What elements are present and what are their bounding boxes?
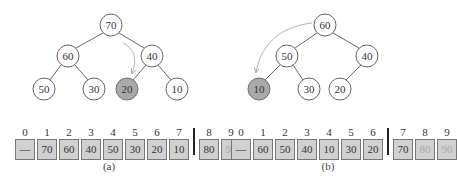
- svg-text:60: 60: [63, 50, 75, 62]
- svg-text:40: 40: [147, 50, 159, 62]
- array-index: 8: [199, 127, 219, 138]
- tree-b-node: 20: [329, 78, 351, 100]
- array-index: 4: [103, 127, 123, 138]
- array-index: 7: [169, 127, 189, 138]
- tree-a-node-highlighted: 20: [116, 78, 138, 100]
- array-cell-sorted: 80: [415, 139, 435, 160]
- svg-text:20: 20: [335, 83, 347, 95]
- heap-boundary-divider-a: [193, 128, 195, 155]
- tree-a-node: 60: [57, 45, 79, 67]
- svg-text:40: 40: [362, 50, 374, 62]
- array-index: 2: [275, 127, 295, 138]
- caption-a: (a): [89, 160, 129, 172]
- array-cell-sorted: 90: [437, 139, 457, 160]
- array-index: 3: [297, 127, 317, 138]
- svg-text:30: 30: [304, 83, 316, 95]
- svg-text:10: 10: [254, 83, 266, 95]
- array-index: 6: [147, 127, 167, 138]
- array-index: 5: [125, 127, 145, 138]
- array-index: 1: [253, 127, 273, 138]
- array-cell: 20: [147, 139, 167, 160]
- tree-a-node: 10: [166, 78, 188, 100]
- swap-arrow-a: [123, 43, 135, 73]
- array-cell: 60: [253, 139, 273, 160]
- array-index: 1: [37, 127, 57, 138]
- tree-a-node-root: 70: [100, 14, 122, 36]
- svg-text:70: 70: [106, 19, 118, 31]
- array-cell: 60: [59, 139, 79, 160]
- array-index: 7: [393, 127, 413, 138]
- array-index: 0: [15, 127, 35, 138]
- tree-a-node: 30: [83, 78, 105, 100]
- array-cell-sorted: 80: [199, 139, 219, 160]
- array-cell: 40: [81, 139, 101, 160]
- array-index: 0: [231, 127, 251, 138]
- caption-b: (b): [308, 160, 348, 172]
- array-cell: —: [15, 139, 35, 160]
- svg-text:20: 20: [122, 83, 134, 95]
- svg-text:50: 50: [282, 50, 294, 62]
- tree-b-node-root: 60: [314, 14, 336, 36]
- tree-b-node: 40: [356, 45, 378, 67]
- array-cell: 10: [319, 139, 339, 160]
- array-cell-sorted: 70: [393, 139, 413, 160]
- tree-a-node: 50: [33, 78, 55, 100]
- array-index: 3: [81, 127, 101, 138]
- array-index: 6: [363, 127, 383, 138]
- array-index: 4: [319, 127, 339, 138]
- svg-text:50: 50: [39, 83, 51, 95]
- array-cell: —: [231, 139, 251, 160]
- svg-text:30: 30: [89, 83, 101, 95]
- svg-text:60: 60: [320, 19, 332, 31]
- array-cell: 40: [297, 139, 317, 160]
- array-cell: 50: [103, 139, 123, 160]
- tree-b-node: 50: [276, 45, 298, 67]
- tree-a-node: 40: [141, 45, 163, 67]
- array-index: 8: [415, 127, 435, 138]
- array-cell: 30: [125, 139, 145, 160]
- array-cell: 20: [363, 139, 383, 160]
- heap-trees: 70 60 40 50 30 20 10 60 50 40 10 30 20: [0, 0, 423, 120]
- array-index: 9: [437, 127, 457, 138]
- array-cell: 70: [37, 139, 57, 160]
- array-cell: 10: [169, 139, 189, 160]
- array-cell: 50: [275, 139, 295, 160]
- array-index: 2: [59, 127, 79, 138]
- array-index: 5: [341, 127, 361, 138]
- heap-boundary-divider-b: [387, 128, 389, 155]
- svg-text:10: 10: [172, 83, 184, 95]
- tree-b-node-highlighted: 10: [248, 78, 270, 100]
- tree-b-node: 30: [298, 78, 320, 100]
- array-cell: 30: [341, 139, 361, 160]
